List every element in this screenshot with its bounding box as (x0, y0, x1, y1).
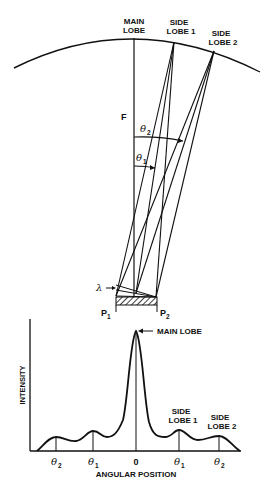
theta1-label: θ (136, 152, 142, 163)
wavefront-lines (116, 285, 156, 297)
theta1-sub: 1 (143, 158, 147, 165)
focal-length-label: F (121, 112, 127, 122)
x-axis-label: ANGULAR POSITION (96, 470, 177, 479)
y-axis-label: INTENSITY (18, 365, 27, 404)
theta2-sub: 2 (147, 129, 151, 136)
tick-theta1-right-sub: 1 (181, 462, 185, 469)
tick-theta2-right: θ (214, 456, 220, 467)
side-lobe-2-label-2: LOBE 2 (209, 38, 238, 47)
main-lobe-arrowhead (138, 329, 143, 334)
main-lobe-label-2: LOBE (123, 26, 146, 35)
side-lobe-1-label-2: LOBE 1 (167, 27, 196, 36)
theta2-arc (134, 137, 183, 141)
side-lobe-2-annotation-1: SIDE (211, 413, 230, 422)
main-lobe-label-1: MAIN (124, 17, 145, 26)
side-lobe-1-label-1: SIDE (170, 18, 189, 27)
p1-sub: 1 (107, 313, 111, 320)
side-lobe-1-annotation-1: SIDE (172, 407, 191, 416)
main-lobe-annotation: MAIN LOBE (157, 327, 203, 336)
side-lobe-2-label-1: SIDE (212, 29, 231, 38)
intensity-plot: MAIN LOBE SIDE LOBE 1 SIDE LOBE 2 INTENS… (18, 319, 241, 479)
lambda-arrowhead (112, 286, 116, 290)
antenna-lobe-diagram: MAIN LOBE SIDE LOBE 1 SIDE LOBE 2 F θ 2 … (0, 0, 271, 486)
tick-lines (56, 332, 219, 451)
aperture-hatched (116, 297, 157, 305)
tick-theta1-right: θ (174, 456, 180, 467)
tick-theta1-left: θ (88, 456, 94, 467)
p2-sub: 2 (166, 313, 170, 320)
side-lobe-2-rays (116, 51, 214, 297)
tick-zero: 0 (133, 457, 138, 467)
tick-theta2-left-sub: 2 (58, 462, 62, 469)
tick-theta1-left-sub: 1 (95, 462, 99, 469)
theta2-label: θ (140, 123, 146, 134)
intensity-curve (37, 331, 240, 451)
side-lobe-1-annotation-2: LOBE 1 (169, 416, 198, 425)
side-lobe-2-annotation-2: LOBE 2 (208, 422, 237, 431)
tick-theta2-right-sub: 2 (221, 462, 225, 469)
top-diagram: MAIN LOBE SIDE LOBE 1 SIDE LOBE 2 F θ 2 … (14, 17, 260, 320)
wavelength-label: λ (95, 282, 102, 293)
tick-theta2-left: θ (51, 456, 57, 467)
